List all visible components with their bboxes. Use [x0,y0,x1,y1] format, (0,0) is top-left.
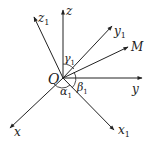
beta1-arc [72,72,76,88]
gamma1-label: γ1 [64,52,75,67]
z-label: z [65,4,73,18]
x-label: x [14,125,21,139]
x1-label: x1 [118,123,130,139]
alpha1-label: α1 [60,85,72,100]
coordinate-diagram: O z z1 y1 M y x1 x γ1 β1 α1 [0,0,154,147]
M-label: M [130,40,144,54]
beta1-label: β1 [76,81,88,96]
z1-label: z1 [37,11,49,27]
y1-label: y1 [113,24,126,40]
origin-label: O [48,71,60,87]
y-label: y [131,82,139,96]
x1-axis [63,78,114,130]
